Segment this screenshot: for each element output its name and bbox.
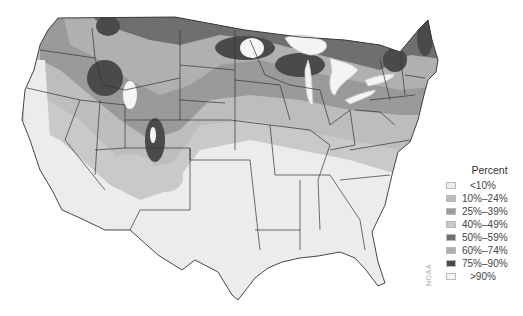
legend-item: 50%–59% xyxy=(446,231,523,244)
legend-label: 75%–90% xyxy=(462,258,508,269)
legend-item: >90% xyxy=(446,270,523,283)
legend-label: 40%–49% xyxy=(462,219,508,230)
map-legend: Percent <10% 10%–24% 25%–39% 40%–49% 50%… xyxy=(446,164,523,283)
legend-label: <10% xyxy=(462,180,496,191)
legend-swatch xyxy=(446,221,456,228)
legend-item: 25%–39% xyxy=(446,205,523,218)
source-credit: NOAA xyxy=(425,264,432,286)
legend-item: 10%–24% xyxy=(446,192,523,205)
legend-swatch xyxy=(446,234,456,241)
map-fill-layer xyxy=(0,0,523,316)
legend-label: 50%–59% xyxy=(462,232,508,243)
legend-item: 40%–49% xyxy=(446,218,523,231)
legend-swatch xyxy=(446,182,456,189)
legend-item: 60%–74% xyxy=(446,244,523,257)
legend-item: 75%–90% xyxy=(446,257,523,270)
legend-label: 60%–74% xyxy=(462,245,508,256)
legend-label: 25%–39% xyxy=(462,206,508,217)
legend-label: 10%–24% xyxy=(462,193,508,204)
legend-title: Percent xyxy=(446,164,523,176)
legend-swatch xyxy=(446,247,456,254)
legend-swatch xyxy=(446,260,456,267)
legend-label: >90% xyxy=(462,271,496,282)
us-choropleth-map xyxy=(0,0,523,316)
legend-swatch xyxy=(446,208,456,215)
legend-item: <10% xyxy=(446,179,523,192)
legend-swatch xyxy=(446,273,456,280)
legend-swatch xyxy=(446,195,456,202)
